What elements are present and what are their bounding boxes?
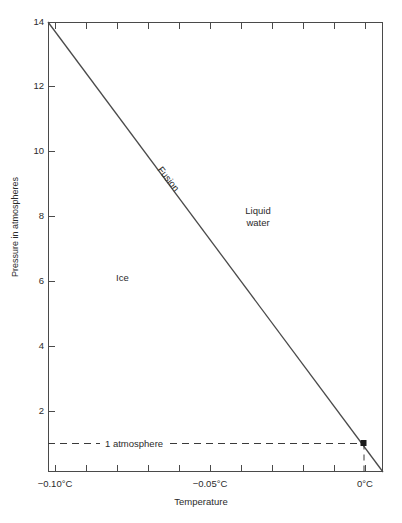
y-tick-label-10: 10 [6, 146, 44, 156]
ice-region-label: Ice [116, 272, 129, 284]
y-tick-label-6-wrap: 6 [0, 276, 44, 286]
x-tick-bottom-7 [241, 465, 242, 472]
y-tick-14 [48, 22, 55, 23]
y-tick-label-14-wrap: 14 [0, 17, 44, 27]
y-tick-8 [48, 216, 55, 217]
x-tick-bottom-1 [55, 465, 56, 472]
x-tick-bottom-3 [117, 465, 118, 472]
y-tick-2 [48, 411, 55, 412]
x-tick-top-1 [55, 22, 56, 29]
x-tick-top-3 [117, 22, 118, 29]
y-tick-label-8-wrap: 8 [0, 211, 44, 221]
y-tick-label-14: 14 [6, 17, 44, 27]
y-tick-6 [48, 281, 55, 282]
y-tick-12 [48, 86, 55, 87]
y-tick-label-12: 12 [6, 81, 44, 91]
phase-diagram-figure: 14 12 10 8 6 4 2 −0.10°C −0.05°C 0°C Pre… [0, 0, 402, 523]
one-atmosphere-label: 1 atmosphere [102, 438, 166, 449]
x-tick-bottom-9 [303, 465, 304, 472]
x-tick-top-10 [334, 22, 335, 29]
liquid-water-region-label: Liquid water [245, 205, 270, 229]
x-tick-top-4 [148, 22, 149, 29]
x-tick-top-8 [272, 22, 273, 29]
x-axis-title: Temperature [0, 496, 402, 507]
x-tick-top-11 [365, 22, 366, 29]
x-tick-bottom-10 [334, 465, 335, 472]
x-tick-bottom-11 [365, 465, 366, 472]
x-tick-bottom-8 [272, 465, 273, 472]
x-tick-bottom-2 [86, 465, 87, 472]
y-tick-label-4-wrap: 4 [0, 341, 44, 351]
y-tick-10 [48, 151, 55, 152]
x-tick-top-6 [210, 22, 211, 29]
x-tick-top-7 [241, 22, 242, 29]
y-tick-label-10-wrap: 10 [0, 146, 44, 156]
x-tick-label-minus-005: −0.05°C [193, 478, 228, 489]
x-tick-label-minus-010: −0.10°C [38, 478, 73, 489]
x-tick-top-5 [179, 22, 180, 29]
x-tick-bottom-4 [148, 465, 149, 472]
x-tick-label-zero: 0°C [357, 478, 373, 489]
y-axis-title: Pressure in atmospheres [10, 162, 20, 292]
y-tick-label-2: 2 [6, 406, 44, 416]
plot-area-frame [48, 22, 383, 472]
y-tick-label-4: 4 [6, 341, 44, 351]
y-tick-label-2-wrap: 2 [0, 406, 44, 416]
y-tick-4 [48, 346, 55, 347]
x-tick-bottom-5 [179, 465, 180, 472]
x-tick-bottom-6 [210, 465, 211, 472]
x-tick-top-9 [303, 22, 304, 29]
y-tick-label-12-wrap: 12 [0, 81, 44, 91]
x-tick-top-2 [86, 22, 87, 29]
